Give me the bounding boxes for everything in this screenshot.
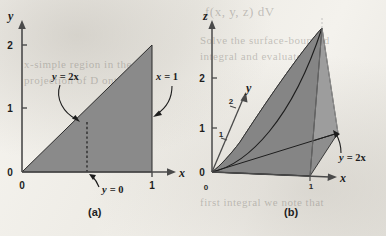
panel-b-origin-label-secondary: 0 bbox=[204, 183, 209, 192]
panel-a-y-axis-arrowhead bbox=[18, 20, 26, 29]
panel-a-x-axis-label: x bbox=[178, 166, 185, 180]
panel-a-origin-label: 0 bbox=[19, 180, 25, 191]
panel-b-x-tick-label-1: 1 bbox=[309, 182, 314, 191]
panel-b-y-tick-label-1: 1 bbox=[219, 130, 224, 139]
panel-b-y-tick-2 bbox=[230, 106, 236, 108]
panel-b-x-axis-label: x bbox=[339, 171, 346, 185]
panel-a-x-axis-arrowhead bbox=[167, 168, 176, 176]
panel-a-y-tick-label-1: 1 bbox=[7, 103, 13, 114]
panel-a-y-axis-label: y bbox=[6, 9, 14, 23]
caption-panel-b: (b) bbox=[284, 206, 298, 218]
panel-b-z-axis-arrowhead bbox=[208, 20, 215, 29]
panel-b-origin-label: 0 bbox=[199, 167, 205, 178]
panel-b-y-axis-label: y bbox=[244, 81, 252, 95]
callout-a-arrow-x1 bbox=[157, 86, 172, 114]
panel-b-z-axis-label: z bbox=[202, 9, 208, 23]
panel-a-y-tick-label-0: 0 bbox=[7, 167, 13, 178]
callout-a-arrow-y2x bbox=[59, 85, 76, 119]
panel-a-y-tick-label-2: 2 bbox=[7, 40, 13, 51]
panel-b-z-tick-label-1: 1 bbox=[199, 123, 205, 134]
callout-a-y-equals-2x: y= 2x bbox=[50, 71, 80, 82]
panel-a-x-tick-label-1: 1 bbox=[149, 180, 155, 191]
callout-a-x-equals-1: x= 1 bbox=[155, 71, 178, 82]
callout-b-y-equals-2x: y= 2x bbox=[337, 152, 367, 163]
caption-panel-a: (a) bbox=[88, 206, 101, 218]
figure-page: f(x, y, z) dV Solve the surface-bounded … bbox=[0, 0, 386, 236]
callout-a-y-equals-0: y= 0 bbox=[100, 184, 124, 195]
panel-a-graphic: y x 2 1 0 0 1 y= 2x x= 1 y= 0 bbox=[0, 0, 386, 236]
callout-b-arrow-y2x bbox=[336, 134, 341, 153]
panel-b-y-tick-label-2: 2 bbox=[229, 97, 234, 106]
panel-b-z-tick-label-2: 2 bbox=[199, 73, 205, 84]
panel-b-x-axis-arrowhead bbox=[328, 173, 337, 181]
